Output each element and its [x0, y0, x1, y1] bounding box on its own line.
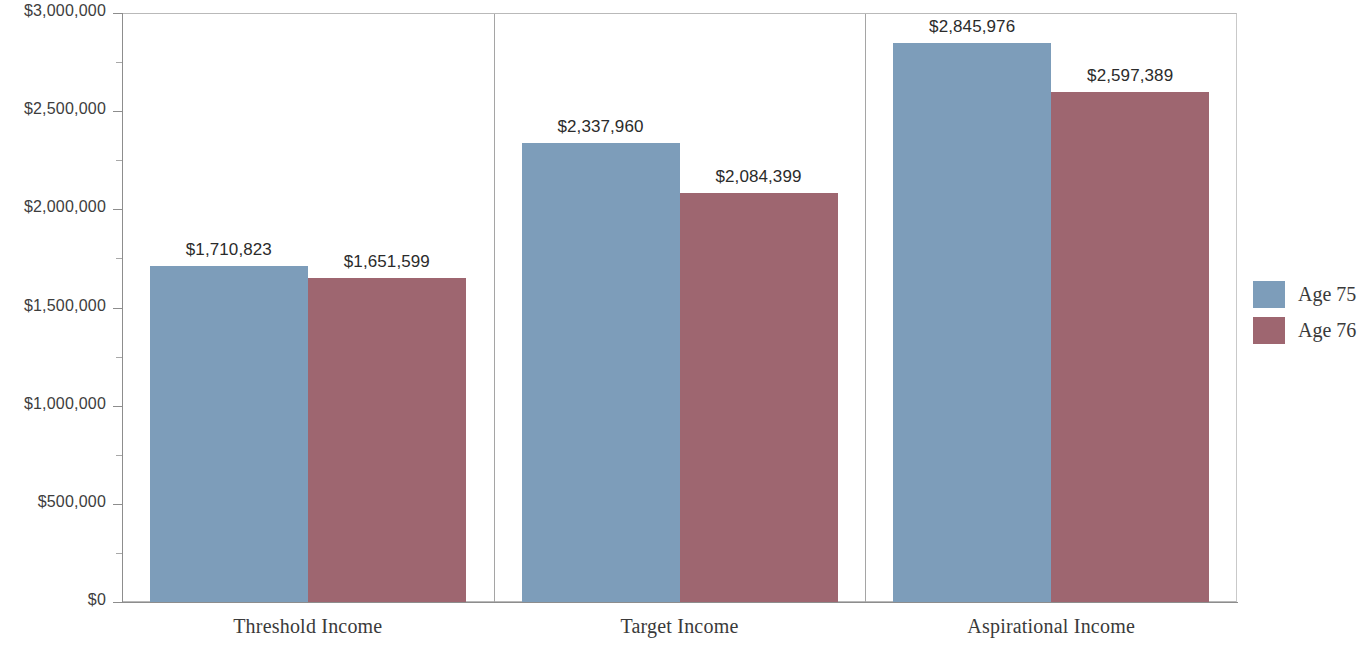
- y-axis-tick-major: [113, 308, 122, 309]
- bar-value-label: $2,845,976: [893, 17, 1051, 37]
- bar-value-label: $2,084,399: [680, 167, 838, 187]
- y-axis-tick-label: $2,000,000: [0, 198, 106, 216]
- y-axis-tick-major: [113, 111, 122, 112]
- bar: [150, 266, 308, 602]
- x-axis-category-label: Threshold Income: [122, 615, 494, 638]
- y-axis-tick-label: $2,500,000: [0, 100, 106, 118]
- y-axis-tick-label: $1,000,000: [0, 395, 106, 413]
- legend-color-swatch: [1253, 317, 1285, 344]
- x-axis-category-label: Target Income: [494, 615, 866, 638]
- bars-layer: [122, 13, 1237, 602]
- y-axis-tick-major: [113, 13, 122, 14]
- legend-item: Age 75: [1253, 276, 1368, 312]
- bar-value-label: $2,337,960: [522, 117, 680, 137]
- bar-value-label: $1,651,599: [308, 252, 466, 272]
- bar: [522, 143, 680, 602]
- y-axis-tick-label: $1,500,000: [0, 297, 106, 315]
- x-axis-line: [122, 602, 1238, 603]
- y-axis-tick-label: $0: [0, 591, 106, 609]
- y-axis-tick-major: [113, 209, 122, 210]
- bar: [308, 278, 466, 602]
- y-axis-tick-major: [113, 602, 122, 603]
- x-axis-category-label: Aspirational Income: [865, 615, 1237, 638]
- y-axis-tick-label: $3,000,000: [0, 2, 106, 20]
- legend: Age 75Age 76: [1253, 276, 1368, 348]
- bar: [893, 43, 1051, 602]
- legend-label: Age 75: [1298, 283, 1356, 306]
- legend-label: Age 76: [1298, 319, 1356, 342]
- y-axis-tick-major: [113, 504, 122, 505]
- bar-value-label: $1,710,823: [150, 240, 308, 260]
- bar: [680, 193, 838, 602]
- bar: [1051, 92, 1209, 602]
- legend-item: Age 76: [1253, 312, 1368, 348]
- grouped-bar-chart: $0$500,000$1,000,000$1,500,000$2,000,000…: [0, 0, 1368, 645]
- y-axis-tick-label: $500,000: [0, 493, 106, 511]
- y-axis-tick-major: [113, 406, 122, 407]
- bar-value-label: $2,597,389: [1051, 66, 1209, 86]
- legend-color-swatch: [1253, 281, 1285, 308]
